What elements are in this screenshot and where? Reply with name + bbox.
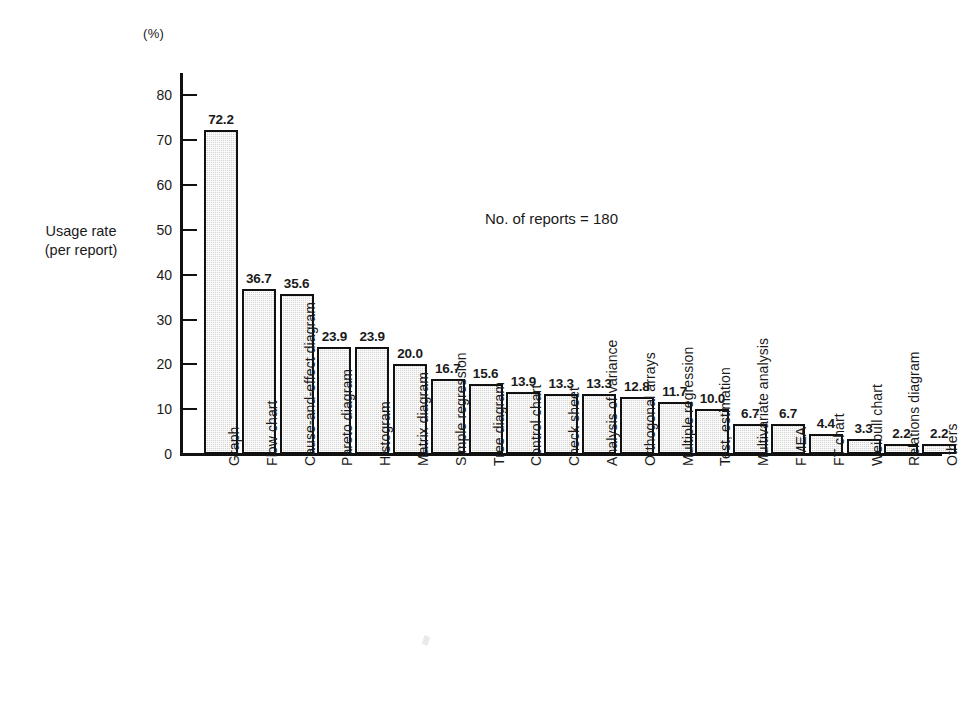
x-axis-category-label: Tree diagram (492, 382, 506, 466)
x-axis-category-label: Test, estimation (718, 367, 732, 466)
x-axis-category-label: Multiple regression (681, 347, 695, 466)
x-axis-category-label: FMEA (794, 427, 808, 466)
x-axis-category-label: Multivariate analysis (756, 338, 770, 466)
bar (204, 130, 238, 454)
x-axis-category-label: Pareto diagram (340, 369, 354, 466)
x-axis-category-label: Control chart (529, 385, 543, 466)
x-axis-category-label: Flow chart (265, 400, 279, 466)
bar-value-label: 20.0 (382, 347, 438, 361)
x-axis-category-label: Check sheet (567, 387, 581, 466)
x-axis-category-label: Cause-and-effect diagram (303, 302, 317, 466)
x-axis-category-label: Histogram (378, 401, 392, 466)
bar-value-label: 35.6 (269, 277, 325, 291)
bar-value-label: 72.2 (193, 113, 249, 127)
bar-value-label: 23.9 (344, 330, 400, 344)
x-axis-category-label: Matrix diagram (416, 372, 430, 466)
bars-layer: 72.236.735.623.923.920.016.715.613.913.3… (0, 0, 979, 704)
x-axis-category-label: Weibull chart (870, 384, 884, 466)
bar-chart: (%) Usage rate (per report) No. of repor… (0, 0, 979, 704)
x-axis-category-label: FT chart (832, 413, 846, 466)
x-axis-category-label: Analysis of variance (605, 339, 619, 466)
x-axis-category-label: Others (945, 423, 959, 466)
x-axis-category-label: Orthogonal arrays (643, 352, 657, 466)
x-axis-category-label: Relations diagram (907, 351, 921, 466)
x-axis-category-label: Graph (227, 427, 241, 466)
plot-area: 01020304050607080 72.236.735.623.923.920… (0, 0, 979, 704)
x-axis-category-label: Simple regression (454, 352, 468, 466)
